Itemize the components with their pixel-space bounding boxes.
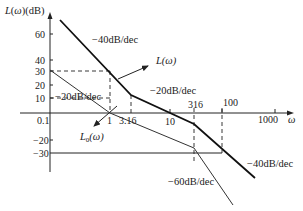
y-tick-10: 10 [35,93,45,104]
y-axis-arrow-icon [48,12,53,19]
x-axis-label: ω [288,114,295,125]
x-tick-3.16: 3.16 [119,115,137,126]
y-tick-minus-30: −30 [33,148,49,159]
x-tick-0.1: 0.1 [37,115,50,126]
x-tick-10: 10 [165,116,175,127]
L-label-pointer-arrow-icon [118,66,148,79]
bode-diagram: L(ω)(dB) ω 60 40 30 20 10 −20 −30 0.1 1 … [0,0,303,211]
slope-label-left: −20dB/dec [55,91,102,102]
x-tick-1: 1 [107,115,112,126]
x-tick-316: 316 [188,99,203,110]
x-tick-1000: 1000 [258,114,278,125]
curve-label-L0: L0(ω) [79,131,104,144]
slope-label-bottom: −60dB/dec [168,176,215,187]
y-tick-30: 30 [35,66,45,77]
slope-label-top: −40dB/dec [92,34,139,45]
curve-label-L: L(ω) [155,55,177,67]
x-tick-100: 100 [223,97,238,108]
slope-label-mid-right: −20dB/dec [150,85,197,96]
y-axis-label: L(ω)(dB) [4,5,45,17]
x-ticks [170,109,275,113]
L0-label-pointer-arrow-icon [94,106,117,126]
y-tick-60: 60 [35,29,45,40]
y-tick-minus-20: −20 [33,135,49,146]
y-tick-20: 20 [35,80,45,91]
y-tick-40: 40 [35,55,45,66]
slope-label-bottom-right: −40dB/dec [247,158,294,169]
